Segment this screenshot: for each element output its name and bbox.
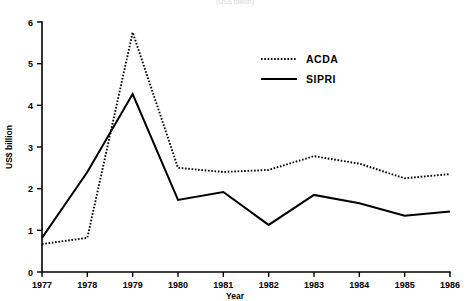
chart-figure: (US$ billion)012345619771978197919801981…	[0, 0, 470, 301]
legend-label-acda: ACDA	[306, 53, 338, 65]
x-tick-label: 1985	[395, 280, 415, 290]
chart-caption: (US$ billion)	[216, 0, 254, 6]
x-tick-label: 1981	[213, 280, 233, 290]
y-tick-label: 4	[28, 101, 33, 111]
x-tick-label: 1980	[168, 280, 188, 290]
legend-label-sipri: SIPRI	[306, 73, 336, 85]
x-tick-label: 1977	[32, 280, 52, 290]
x-tick-label: 1984	[349, 280, 369, 290]
x-tick-label: 1986	[440, 280, 460, 290]
x-tick-label: 1982	[259, 280, 279, 290]
x-axis-title: Year	[226, 291, 245, 301]
chart-legend: ACDASIPRI	[261, 53, 338, 85]
x-tick-label: 1983	[304, 280, 324, 290]
chart-axes	[37, 22, 450, 277]
y-axis-title: US$ billion	[4, 125, 14, 169]
chart-series-group	[42, 32, 450, 244]
y-tick-label: 6	[28, 18, 33, 28]
y-tick-label: 2	[28, 184, 33, 194]
x-tick-label: 1979	[123, 280, 143, 290]
y-tick-label: 0	[28, 268, 33, 278]
axis-lines	[42, 22, 450, 272]
x-tick-label: 1978	[77, 280, 97, 290]
y-tick-label: 3	[28, 143, 33, 153]
y-tick-label: 1	[28, 226, 33, 236]
line-chart: (US$ billion)012345619771978197919801981…	[0, 0, 470, 301]
y-tick-label: 5	[28, 59, 33, 69]
